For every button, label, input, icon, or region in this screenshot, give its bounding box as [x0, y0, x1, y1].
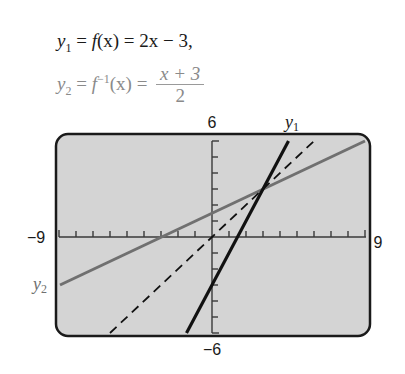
ymax-label: 6: [208, 114, 217, 131]
y1-curve-label: y1: [283, 112, 299, 134]
xmax-label: 9: [374, 234, 383, 251]
y2-curve-label: y2: [31, 274, 47, 296]
graph: −9 9 6 −6 y1 y2: [0, 0, 405, 374]
xmin-label: −9: [27, 229, 45, 246]
ymin-label: −6: [203, 341, 221, 358]
